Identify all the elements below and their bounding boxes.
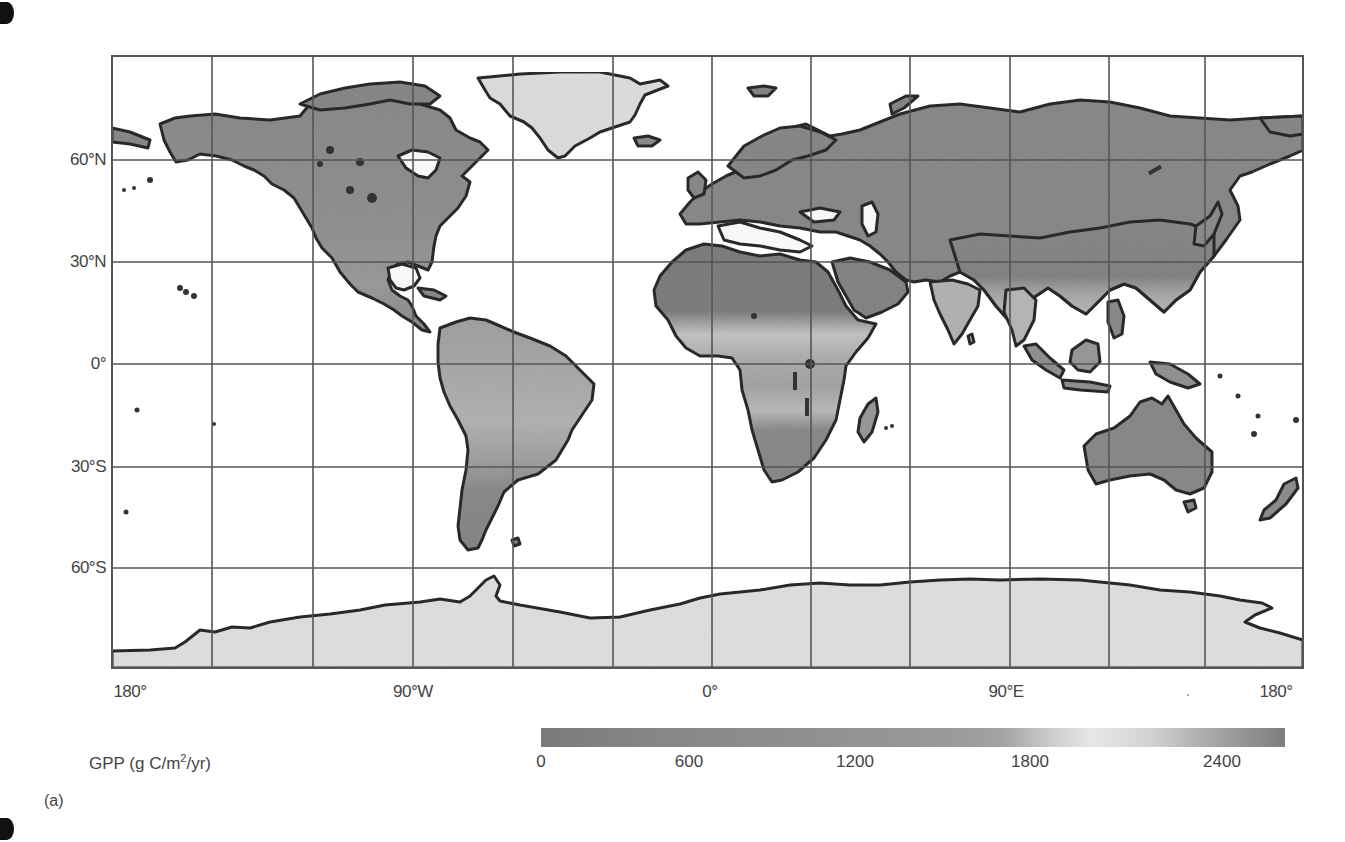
panel-label: (a) xyxy=(44,792,64,810)
iceland xyxy=(634,136,660,146)
lon-label-0: 0° xyxy=(702,682,717,702)
colorbar-title: GPP (g C/m2/yr) xyxy=(89,752,211,774)
colorbar-tick-1200: 1200 xyxy=(836,752,874,772)
lat-label-60n: 60°N xyxy=(36,150,106,170)
lat-label-30n: 30°N xyxy=(36,252,106,272)
world-map xyxy=(0,0,1345,842)
colorbar xyxy=(541,728,1285,747)
philippines xyxy=(1108,300,1124,338)
colorbar-tick-2400: 2400 xyxy=(1203,752,1241,772)
colorbar-tick-1800: 1800 xyxy=(1011,752,1049,772)
gulf-of-mexico xyxy=(388,264,420,290)
great-britain xyxy=(688,172,706,198)
tasmania xyxy=(1184,500,1196,512)
lat-label-equator: 0° xyxy=(36,354,106,374)
colorbar-tick-600: 600 xyxy=(675,752,703,772)
lon-label-180e: 180° xyxy=(1259,682,1292,702)
colorbar-title-suffix: /yr) xyxy=(186,754,211,773)
colorbar-title-prefix: GPP (g C/m xyxy=(89,754,180,773)
lon-label-90w: 90°W xyxy=(393,682,433,702)
lon-label-90e: 90°E xyxy=(988,682,1023,702)
lat-label-60s: 60°S xyxy=(36,558,106,578)
lon-label-180w: 180° xyxy=(113,682,146,702)
lat-label-30s: 30°S xyxy=(36,457,106,477)
sri-lanka xyxy=(968,334,974,344)
scan-artifact xyxy=(1187,694,1189,696)
colorbar-tick-0: 0 xyxy=(536,752,545,772)
caspian-sea xyxy=(862,202,878,236)
